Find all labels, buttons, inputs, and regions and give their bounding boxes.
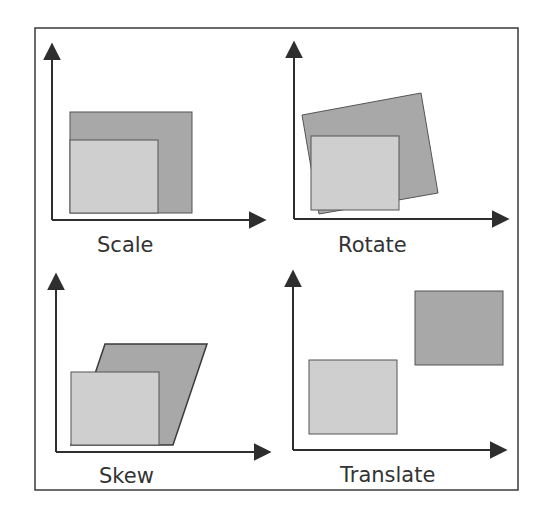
panel-label-translate: Translate	[339, 463, 435, 487]
translated-shape	[415, 291, 503, 365]
transformations-diagram: Scale Rotate Skew Translate	[0, 0, 543, 510]
original-shape	[71, 372, 159, 445]
original-shape	[311, 136, 399, 210]
panel-translate: Translate	[293, 273, 504, 487]
panel-rotate: Rotate	[294, 44, 506, 257]
original-shape	[309, 360, 397, 434]
original-shape	[70, 140, 158, 213]
panel-label-skew: Skew	[99, 464, 154, 488]
panel-skew: Skew	[56, 276, 268, 488]
panel-label-rotate: Rotate	[338, 233, 407, 257]
panel-label-scale: Scale	[97, 233, 154, 257]
panel-scale: Scale	[52, 46, 263, 257]
